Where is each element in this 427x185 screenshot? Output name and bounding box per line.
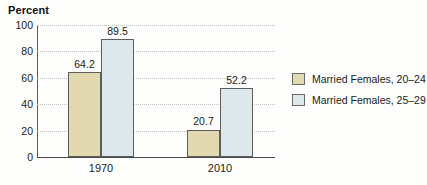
legend-swatch-icon-series-a xyxy=(292,73,305,85)
x-axis-line xyxy=(37,157,275,158)
legend-item-married-females-20-24[interactable]: Married Females, 20–24 xyxy=(292,70,422,87)
bar-value-2010-a: 20.7 xyxy=(193,115,213,127)
bar-2010-married-females-25-29[interactable] xyxy=(220,88,253,157)
legend-item-married-females-25-29[interactable]: Married Females, 25–29 xyxy=(292,91,422,108)
bar-2010-married-females-20-24[interactable] xyxy=(187,130,220,157)
legend-label-series-b: Married Females, 25–29 xyxy=(312,94,426,106)
y-tick-20: 20 xyxy=(3,125,33,137)
gridline-100 xyxy=(37,25,275,26)
legend-label-series-a: Married Females, 20–24 xyxy=(312,73,426,85)
y-tick-60: 60 xyxy=(3,72,33,84)
bar-1970-married-females-25-29[interactable] xyxy=(101,39,134,157)
y-axis-tick-labels: 100 80 60 40 20 0 xyxy=(0,25,33,157)
bar-1970-married-females-20-24[interactable] xyxy=(68,72,101,157)
plot-area: 64.2 89.5 20.7 52.2 xyxy=(37,25,275,157)
legend-swatch-icon-series-b xyxy=(292,94,305,106)
bar-value-2010-b: 52.2 xyxy=(226,74,246,86)
x-tick-1970: 1970 xyxy=(89,162,113,174)
y-axis-title: Percent xyxy=(8,4,49,16)
bar-value-1970-a: 64.2 xyxy=(74,58,94,70)
y-tick-40: 40 xyxy=(3,98,33,110)
y-tick-0: 0 xyxy=(3,151,33,163)
bar-chart: Percent 100 80 60 40 20 0 64.2 89.5 20.7… xyxy=(0,0,427,185)
x-tick-2010: 2010 xyxy=(208,162,232,174)
y-tick-100: 100 xyxy=(3,19,33,31)
y-tick-80: 80 xyxy=(3,45,33,57)
bar-value-1970-b: 89.5 xyxy=(107,25,127,37)
legend: Married Females, 20–24 Married Females, … xyxy=(292,70,422,112)
gridline-80 xyxy=(37,51,275,52)
